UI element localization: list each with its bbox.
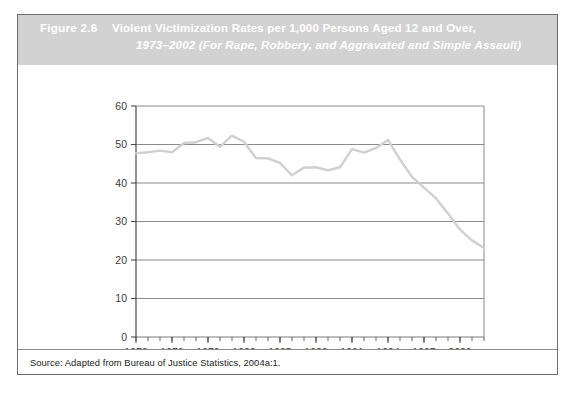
svg-text:30: 30	[115, 215, 127, 227]
y-axis-tick-labels: 0102030405060	[115, 100, 127, 343]
svg-text:0: 0	[121, 331, 127, 343]
footer-divider	[18, 349, 557, 350]
line-chart-icon: 0102030405060 19731976197919821985198819…	[18, 65, 557, 350]
svg-text:40: 40	[115, 177, 127, 189]
figure-number-label: Figure 2.6	[40, 22, 97, 34]
figure-root: Figure 2.6 Violent Victimization Rates p…	[0, 0, 576, 398]
chart-axes	[131, 106, 484, 343]
figure-title-band: Figure 2.6 Violent Victimization Rates p…	[18, 15, 557, 65]
source-note: Source: Adapted from Bureau of Justice S…	[30, 357, 280, 368]
chart-series-line	[136, 136, 484, 248]
figure-title-line-1: Violent Victimization Rates per 1,000 Pe…	[112, 22, 476, 34]
figure-box: Figure 2.6 Violent Victimization Rates p…	[17, 14, 558, 375]
svg-text:20: 20	[115, 254, 127, 266]
svg-text:10: 10	[115, 292, 127, 304]
svg-text:60: 60	[115, 100, 127, 112]
figure-title-text-group: Figure 2.6 Violent Victimization Rates p…	[40, 22, 540, 62]
chart-gridlines	[136, 106, 484, 337]
svg-text:50: 50	[115, 138, 127, 150]
figure-title-line-2: 1973–2002 (For Rape, Robbery, and Aggrav…	[136, 39, 521, 51]
chart-area: 0102030405060 19731976197919821985198819…	[18, 65, 557, 350]
